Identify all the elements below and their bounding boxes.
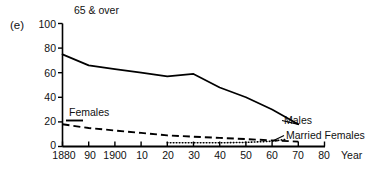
- figure-panel-e: (e) 65 & over 100 80 60 40 20 0 1880 90 …: [0, 0, 382, 174]
- series-line-males: [63, 54, 299, 124]
- series-line-married-females: [167, 139, 285, 142]
- plot-area: [0, 0, 382, 174]
- series-line-females: [63, 124, 299, 141]
